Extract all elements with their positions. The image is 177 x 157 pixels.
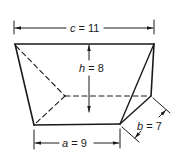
b-dim-upper [159,110,166,117]
b-dim-lower [135,131,141,138]
hidden-edge-bottom-left [35,96,65,124]
label-c: c = 11 [70,22,99,34]
right-diagonal-edge [120,44,154,124]
label-h: h = 8 [79,62,104,74]
b-ext-top [153,98,170,113]
right-vertical-edge [151,44,154,96]
bottom-edge-a [34,124,120,125]
label-b: b = 7 [137,120,162,132]
label-a: a = 9 [62,137,87,149]
prismatoid-diagram: c = 11 h = 8 a = 9 b = 7 [0,0,177,157]
left-slant-edge [15,44,34,125]
hidden-edge-top-left [16,46,65,96]
